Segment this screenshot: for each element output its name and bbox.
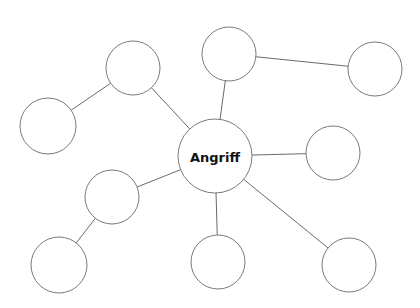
edge-center-n-mid-left	[137, 170, 181, 187]
node-mid-left	[85, 170, 139, 224]
node-bottom-center	[191, 235, 245, 289]
node-top-right	[348, 42, 402, 96]
node-bottom-left	[31, 237, 87, 293]
edge-n-mid-left-n-bottom-left	[76, 218, 95, 243]
node-left	[20, 98, 76, 154]
edge-center-n-top	[220, 81, 225, 120]
edge-center-n-right	[252, 154, 306, 155]
edge-n-upper-left-n-left	[71, 83, 111, 110]
mind-map-diagram: Angriff	[0, 0, 420, 308]
center-node-label: Angriff	[190, 150, 240, 165]
edge-n-top-n-top-right	[256, 57, 348, 66]
edge-center-n-bottom-center	[216, 193, 217, 235]
node-upper-left	[106, 41, 160, 95]
edge-center-n-upper-left	[151, 88, 189, 129]
edge-center-n-bottom-right	[244, 179, 328, 248]
node-bottom-right	[322, 238, 376, 292]
node-top	[202, 27, 256, 81]
node-right	[306, 126, 360, 180]
